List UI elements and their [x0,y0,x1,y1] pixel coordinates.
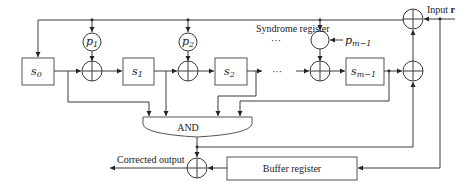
ellipsis-top: ··· [271,35,281,46]
input-label: Input r [427,4,456,15]
and-label: AND [177,122,199,133]
pm1-label: pm−1 [345,34,371,48]
ellipsis-chain: ··· [272,66,282,77]
syndrome-register-label: Syndrome register [256,23,330,34]
xor-adders [82,9,423,178]
syndrome-decoder-diagram: Syndrome register ··· ··· Input r AND Co… [0,0,473,188]
corrected-output-label: Corrected output [117,154,185,165]
diagram-svg: Syndrome register ··· ··· Input r AND Co… [0,0,473,188]
buffer-register-label: Buffer register [263,163,322,174]
